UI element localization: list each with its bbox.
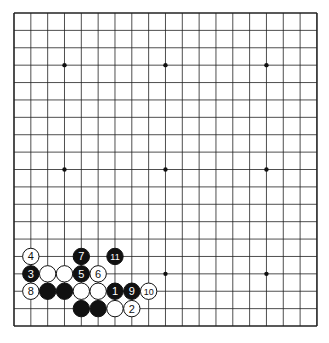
move-number: 4 — [28, 250, 34, 262]
move-number: 11 — [110, 252, 119, 262]
white-stone — [73, 283, 89, 299]
move-number: 8 — [28, 285, 34, 297]
star-point — [62, 63, 66, 67]
star-point — [264, 63, 268, 67]
move-number: 9 — [129, 285, 135, 297]
move-number: 6 — [95, 268, 101, 280]
move-number: 7 — [78, 250, 84, 262]
black-stone — [56, 283, 72, 299]
move-number: 2 — [129, 303, 135, 315]
white-stone — [56, 266, 72, 282]
star-point — [163, 167, 167, 171]
white-stone — [107, 300, 123, 316]
black-stone — [73, 300, 89, 316]
white-stone — [39, 266, 55, 282]
move-number: 5 — [78, 268, 84, 280]
white-stone — [90, 283, 106, 299]
star-point — [163, 272, 167, 276]
black-stone — [90, 300, 106, 316]
black-stone — [39, 283, 55, 299]
move-number: 3 — [28, 268, 34, 280]
move-number: 1 — [112, 285, 118, 297]
star-point — [62, 167, 66, 171]
star-point — [264, 272, 268, 276]
star-point — [264, 167, 268, 171]
move-number: 10 — [144, 287, 154, 297]
star-point — [163, 63, 167, 67]
go-board: 2819103564711 — [0, 0, 329, 343]
